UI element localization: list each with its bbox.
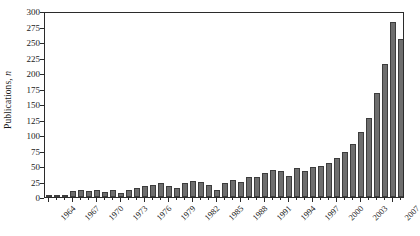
bar	[206, 185, 211, 197]
y-tick-label: 200	[14, 70, 40, 79]
x-tick-label: 1982	[203, 204, 221, 222]
bar	[166, 186, 171, 197]
bar	[110, 190, 115, 197]
y-axis-title-text: Publications,	[3, 76, 13, 129]
x-tick-label: 1994	[299, 204, 317, 222]
plot-area	[44, 12, 404, 198]
y-tick-label: 150	[14, 101, 40, 110]
x-tick-label: 2003	[371, 204, 389, 222]
x-tick-label: 1979	[179, 204, 197, 222]
y-tick-label: 100	[14, 132, 40, 141]
bar	[350, 144, 355, 197]
y-tick-label: 75	[14, 147, 40, 156]
bar	[254, 177, 259, 197]
bar	[174, 188, 179, 197]
y-tick-label: 175	[14, 85, 40, 94]
bar	[326, 163, 331, 197]
x-axis-tick-labels: 1964196719701973197619791982198519881991…	[44, 200, 406, 236]
bar	[366, 118, 371, 197]
bar	[382, 64, 387, 197]
bar	[214, 190, 219, 197]
bar	[302, 171, 307, 197]
y-axis-title-italic: n	[3, 71, 13, 76]
bar	[78, 190, 83, 197]
y-axis-tick-labels: 0255075100125150175200225250275300	[14, 0, 40, 205]
bar	[294, 168, 299, 197]
publications-bar-chart: Publications, n 025507510012515017520022…	[0, 0, 420, 236]
x-tick-label: 1976	[155, 204, 173, 222]
bar	[126, 190, 131, 197]
y-tick-label: 25	[14, 178, 40, 187]
bar	[142, 186, 147, 197]
bar	[270, 170, 275, 197]
x-tick-label: 1991	[275, 204, 293, 222]
y-tick-label: 125	[14, 116, 40, 125]
x-tick-label: 2007	[403, 204, 420, 222]
bar	[246, 177, 251, 197]
x-tick-label: 1985	[227, 204, 245, 222]
x-tick-label: 1973	[131, 204, 149, 222]
bar	[390, 22, 395, 197]
bar	[310, 167, 315, 197]
bar	[358, 132, 363, 197]
bar	[374, 93, 379, 197]
bar	[158, 183, 163, 197]
y-tick-label: 300	[14, 8, 40, 17]
bar	[286, 176, 291, 197]
bar	[94, 190, 99, 197]
y-tick-label: 225	[14, 54, 40, 63]
bar	[230, 180, 235, 197]
x-tick-label: 1964	[59, 204, 77, 222]
x-tick-label: 1967	[83, 204, 101, 222]
bar	[222, 183, 227, 197]
bar	[134, 188, 139, 197]
bar	[398, 39, 403, 197]
bar	[342, 152, 347, 197]
bar	[238, 182, 243, 198]
y-tick-label: 275	[14, 23, 40, 32]
y-tick-label: 50	[14, 163, 40, 172]
bar	[318, 166, 323, 197]
bars-layer	[45, 13, 403, 197]
bar	[262, 173, 267, 197]
x-tick-label: 2000	[347, 204, 365, 222]
x-tick-label: 1997	[323, 204, 341, 222]
bar	[150, 185, 155, 197]
bar	[278, 171, 283, 197]
y-tick-label: 0	[14, 194, 40, 203]
x-tick-label: 1970	[107, 204, 125, 222]
bar	[190, 181, 195, 197]
x-tick-label: 1988	[251, 204, 269, 222]
bar	[182, 183, 187, 197]
y-tick-label: 250	[14, 39, 40, 48]
bar	[334, 158, 339, 197]
bar	[198, 182, 203, 197]
